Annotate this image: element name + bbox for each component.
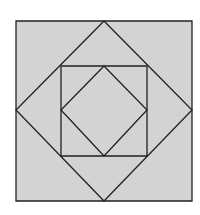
- outer-square: [16, 21, 192, 201]
- nested-squares-diagram: [0, 0, 200, 215]
